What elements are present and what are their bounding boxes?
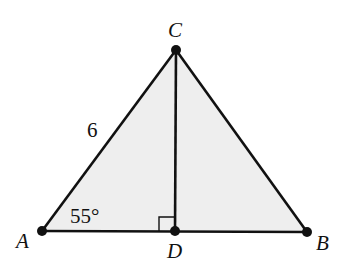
label-b: B <box>316 231 329 255</box>
point-b <box>302 227 312 237</box>
point-a <box>37 226 47 236</box>
label-d: D <box>166 239 182 263</box>
label-c: C <box>168 18 183 42</box>
point-d <box>170 226 180 236</box>
side-length-ac: 6 <box>87 118 98 142</box>
point-c <box>171 45 181 55</box>
triangle-diagram: C A B D 6 55° <box>0 0 349 274</box>
angle-a-measure: 55° <box>70 204 99 228</box>
diagram-canvas: C A B D 6 55° <box>0 0 349 274</box>
label-a: A <box>14 229 29 253</box>
altitude-cd <box>175 50 176 231</box>
